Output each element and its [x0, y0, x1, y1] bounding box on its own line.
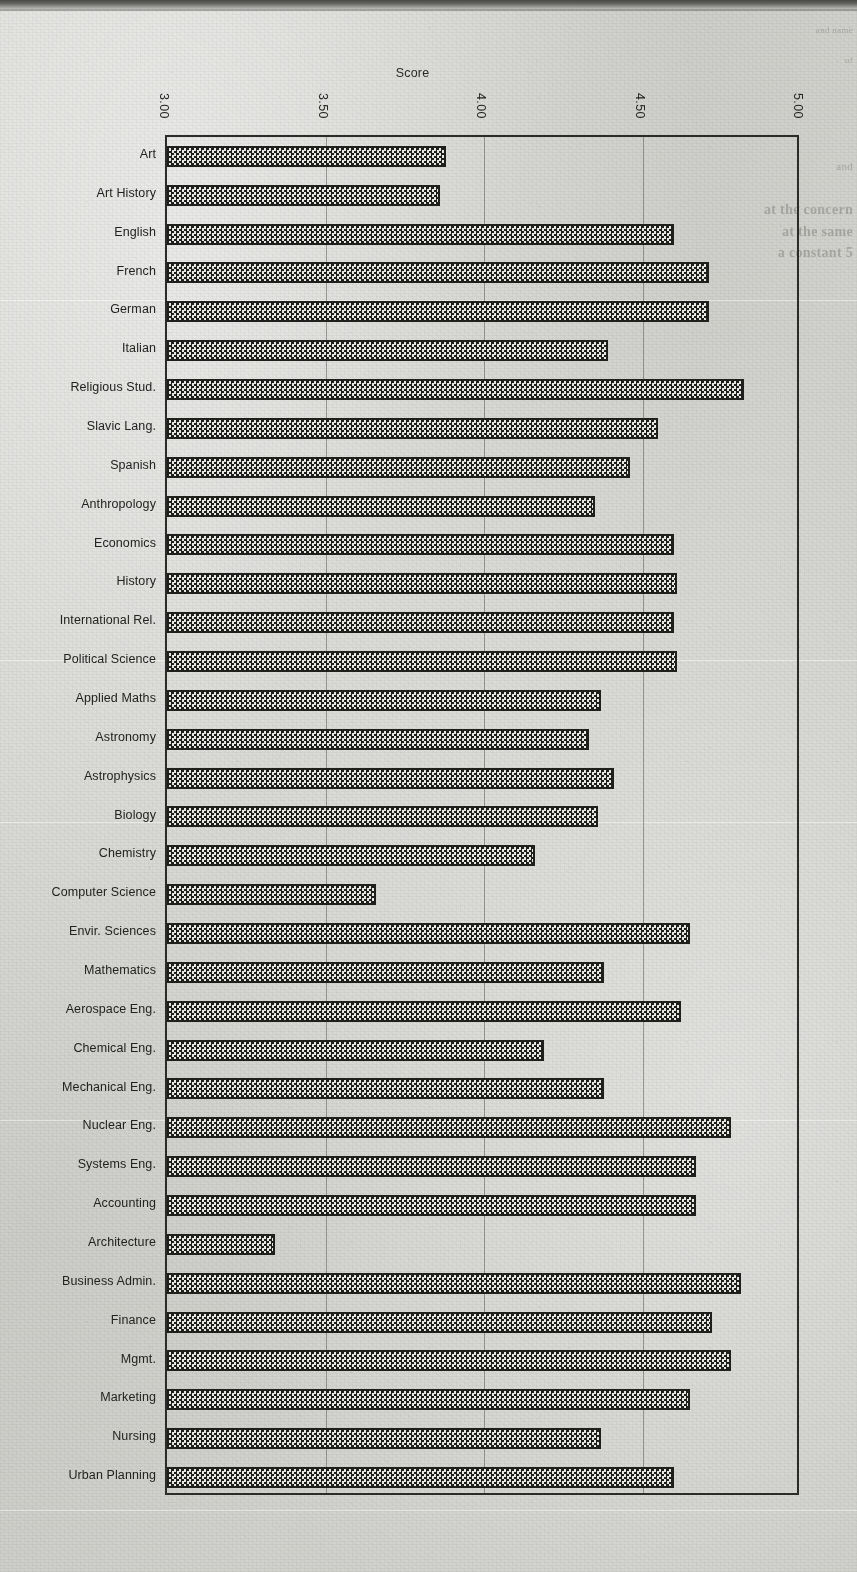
category-label: Religious Stud.	[7, 368, 165, 407]
bar	[167, 651, 677, 672]
bar	[167, 573, 677, 594]
x-tick-label: 5.00	[791, 93, 805, 119]
bar-row	[167, 1225, 797, 1264]
bar	[167, 340, 608, 361]
category-label: French	[7, 252, 165, 291]
bar-row	[167, 875, 797, 914]
x-tick-label: 4.50	[633, 93, 647, 119]
category-label: Political Science	[7, 640, 165, 679]
category-label: Biology	[7, 796, 165, 835]
category-label: Nuclear Eng.	[7, 1106, 165, 1145]
plot-area	[165, 135, 799, 1495]
bar	[167, 1389, 690, 1410]
category-label: Mgmt.	[7, 1340, 165, 1379]
category-label: Urban Planning	[7, 1456, 165, 1495]
category-label: Economics	[7, 524, 165, 563]
bar-row	[167, 603, 797, 642]
bar-row	[167, 1419, 797, 1458]
bar-row	[167, 1380, 797, 1419]
bar-row	[167, 137, 797, 176]
bar-row	[167, 836, 797, 875]
bar-row	[167, 759, 797, 798]
category-label: Astronomy	[7, 718, 165, 757]
bar-row	[167, 642, 797, 681]
category-label: International Rel.	[7, 601, 165, 640]
category-label: Accounting	[7, 1184, 165, 1223]
bar	[167, 146, 446, 167]
bar	[167, 884, 376, 905]
x-tick-label: 4.00	[474, 93, 488, 119]
category-label: German	[7, 290, 165, 329]
bar-row	[167, 681, 797, 720]
bar-chart-figure: Score 3.003.504.004.505.00 ArtArt Histor…	[0, 0, 857, 1572]
bar-row	[167, 487, 797, 526]
bar-row	[167, 409, 797, 448]
category-label: Aerospace Eng.	[7, 990, 165, 1029]
bar-row	[167, 1264, 797, 1303]
category-label: Chemistry	[7, 834, 165, 873]
bar	[167, 729, 589, 750]
bar-row	[167, 176, 797, 215]
bar-row	[167, 1458, 797, 1497]
bar-row	[167, 1186, 797, 1225]
bar	[167, 185, 440, 206]
bar-row	[167, 254, 797, 293]
category-label: Marketing	[7, 1378, 165, 1417]
bar	[167, 262, 709, 283]
bar	[167, 496, 595, 517]
bar-row	[167, 798, 797, 837]
category-label: Mathematics	[7, 951, 165, 990]
x-tick-label: 3.50	[316, 93, 330, 119]
bar-row	[167, 331, 797, 370]
bar	[167, 379, 744, 400]
category-label: Business Admin.	[7, 1262, 165, 1301]
category-label: Envir. Sciences	[7, 912, 165, 951]
category-label: Architecture	[7, 1223, 165, 1262]
category-label: Anthropology	[7, 485, 165, 524]
bar	[167, 1467, 674, 1488]
bar-row	[167, 953, 797, 992]
bar	[167, 768, 614, 789]
bar	[167, 1195, 696, 1216]
category-label: Applied Maths	[7, 679, 165, 718]
bar	[167, 301, 709, 322]
bar	[167, 806, 598, 827]
bar-row	[167, 370, 797, 409]
x-tick-label: 3.00	[157, 93, 171, 119]
bar	[167, 1312, 712, 1333]
category-label: Mechanical Eng.	[7, 1068, 165, 1107]
bar	[167, 457, 630, 478]
bar	[167, 534, 674, 555]
bar	[167, 923, 690, 944]
category-label: Computer Science	[7, 873, 165, 912]
category-label: Astrophysics	[7, 757, 165, 796]
category-label: English	[7, 213, 165, 252]
bar-row	[167, 215, 797, 254]
bar	[167, 1350, 731, 1371]
category-label: Italian	[7, 329, 165, 368]
bar-rows	[167, 137, 797, 1493]
bar	[167, 690, 601, 711]
bar	[167, 1234, 275, 1255]
bar	[167, 612, 674, 633]
bar-row	[167, 992, 797, 1031]
category-label: Spanish	[7, 446, 165, 485]
bar	[167, 1428, 601, 1449]
bar-row	[167, 526, 797, 565]
category-label: History	[7, 562, 165, 601]
category-label: Systems Eng.	[7, 1145, 165, 1184]
bar	[167, 1156, 696, 1177]
category-label: Nursing	[7, 1417, 165, 1456]
bar-row	[167, 292, 797, 331]
bar-row	[167, 1342, 797, 1381]
chart-title: Score	[0, 66, 841, 80]
category-label: Art History	[7, 174, 165, 213]
category-label: Slavic Lang.	[7, 407, 165, 446]
category-label: Chemical Eng.	[7, 1029, 165, 1068]
bar-row	[167, 448, 797, 487]
bar	[167, 1001, 681, 1022]
bar	[167, 418, 658, 439]
bar-row	[167, 720, 797, 759]
bar-row	[167, 1108, 797, 1147]
bar	[167, 1040, 544, 1061]
